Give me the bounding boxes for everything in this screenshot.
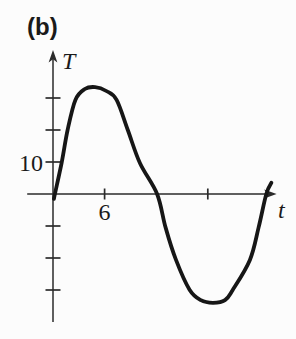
panel-label: (b)	[27, 15, 58, 39]
y-tick-label-10: 10	[13, 151, 43, 175]
temperature-curve	[54, 87, 272, 303]
x-tick-label-6: 6	[96, 200, 113, 224]
plot-canvas	[0, 0, 296, 339]
figure-panel-b: (b) T t 10 6	[0, 0, 296, 339]
y-axis-label: T	[62, 49, 75, 73]
x-axis-label: t	[278, 198, 285, 222]
